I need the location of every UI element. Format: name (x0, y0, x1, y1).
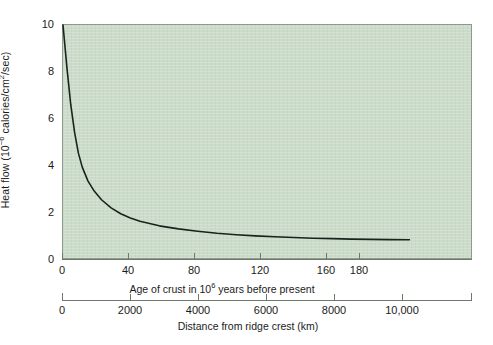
y-tick-label-4: 4 (36, 160, 54, 171)
age-tick-label-80: 80 (188, 265, 200, 276)
y-tick-label-8: 8 (36, 66, 54, 77)
y-tick-label-0: 0 (36, 254, 54, 265)
age-axis-title-text-2: years before present (215, 283, 314, 295)
age-tick-mark-40 (128, 253, 129, 259)
age-axis-title: Age of crust in 106 years before present (129, 280, 314, 295)
distance-axis-right-cap (471, 293, 472, 300)
distance-axis-line (62, 300, 472, 301)
distance-axis-title: Distance from ridge crest (km) (178, 320, 319, 332)
y-axis-label-exponent-2: 2 (0, 75, 6, 79)
distance-tick-mark-10000 (402, 294, 403, 300)
age-tick-label-120: 120 (251, 265, 269, 276)
distance-tick-mark-8000 (334, 294, 335, 300)
age-axis: 0 40 80 120 160 180 Age of crust in 106 … (62, 259, 472, 260)
age-tick-label-180: 180 (350, 265, 368, 276)
age-tick-label-40: 40 (122, 265, 134, 276)
age-axis-title-text: Age of crust in 10 (129, 283, 211, 295)
y-tick-label-6: 6 (36, 113, 54, 124)
distance-tick-label-6000: 6000 (254, 305, 278, 316)
distance-tick-label-2000: 2000 (118, 305, 142, 316)
distance-tick-mark-2000 (130, 294, 131, 300)
age-tick-mark-0 (62, 253, 63, 259)
distance-tick-mark-0 (62, 294, 63, 300)
age-tick-mark-180 (359, 253, 360, 259)
age-tick-mark-120 (260, 253, 261, 259)
distance-tick-label-0: 0 (59, 305, 65, 316)
y-axis-label-container: Heat flow (10−6 calories/cm2/sec) (0, 0, 14, 260)
distance-tick-label-10000: 10,000 (385, 305, 419, 316)
age-tick-mark-160 (326, 253, 327, 259)
y-tick-label-2: 2 (36, 207, 54, 218)
y-tick-label-10: 10 (36, 19, 54, 30)
heat-flow-curve-svg (63, 25, 471, 258)
age-tick-label-0: 0 (59, 265, 65, 276)
heat-flow-figure: Heat flow (10−6 calories/cm2/sec) 10 8 6… (0, 0, 493, 345)
y-axis-label-text: Heat flow (10 (0, 145, 11, 208)
y-axis-label-text-3: /sec) (0, 52, 11, 75)
distance-tick-label-4000: 4000 (186, 305, 210, 316)
distance-axis: 0 2000 4000 6000 8000 10,000 Distance fr… (62, 300, 472, 301)
y-axis-label-exponent: −6 (0, 136, 6, 145)
distance-tick-mark-4000 (198, 294, 199, 300)
y-axis-label: Heat flow (10−6 calories/cm2/sec) (0, 52, 11, 209)
distance-tick-mark-6000 (266, 294, 267, 300)
y-axis-label-text-2: calories/cm (0, 79, 11, 136)
age-tick-label-160: 160 (317, 265, 335, 276)
age-tick-mark-80 (194, 253, 195, 259)
heat-flow-curve (63, 25, 409, 240)
plot-area (62, 24, 472, 259)
age-axis-line (62, 259, 472, 260)
distance-tick-label-8000: 8000 (322, 305, 346, 316)
